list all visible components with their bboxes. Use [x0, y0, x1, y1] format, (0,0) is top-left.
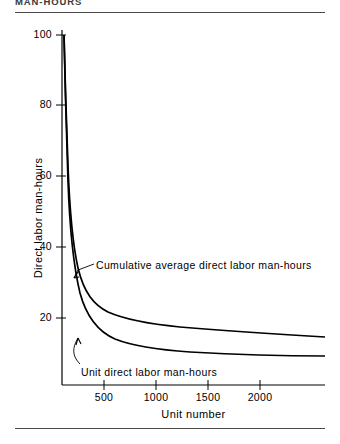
plot-canvas — [0, 16, 340, 426]
x-axis-title: Unit number — [62, 408, 325, 420]
learning-curve-figure: Direct labor man-hours Unit number 100 8… — [0, 16, 340, 426]
y-tick-label-40: 40 — [18, 240, 52, 252]
y-tick-label-20: 20 — [18, 311, 52, 323]
annotation-cumulative-average: Cumulative average direct labor man-hour… — [96, 259, 312, 271]
series-line-cumulative-average — [64, 35, 325, 337]
y-tick-label-80: 80 — [18, 98, 52, 110]
series-line-unit — [64, 35, 325, 356]
bottom-divider-rule — [15, 428, 325, 429]
y-tick-label-100: 100 — [18, 28, 52, 40]
y-axis-title: Direct labor man-hours — [32, 118, 44, 318]
annotation-unit: Unit direct labor man-hours — [81, 366, 217, 378]
running-head: MAN-HOURS — [15, 0, 82, 7]
x-tick-label-1500: 1500 — [186, 391, 230, 403]
x-tick-label-500: 500 — [82, 391, 126, 403]
leader-line-unit — [74, 338, 81, 364]
x-tick-label-1000: 1000 — [134, 391, 178, 403]
x-tick-label-2000: 2000 — [238, 391, 282, 403]
top-divider-rule — [15, 12, 325, 13]
y-tick-label-60: 60 — [18, 169, 52, 181]
